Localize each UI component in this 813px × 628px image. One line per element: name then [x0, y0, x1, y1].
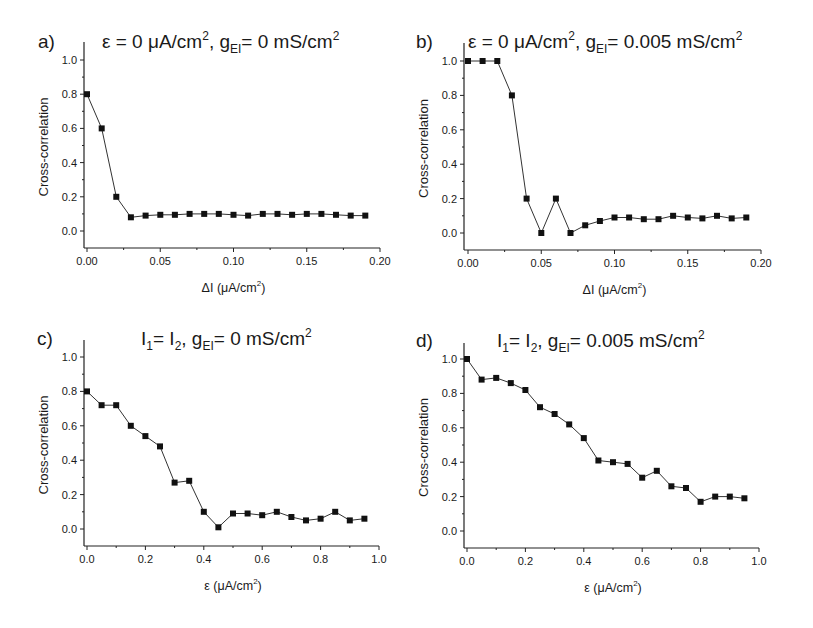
y-tick-label: 0.8: [62, 88, 77, 100]
data-point: [479, 377, 485, 383]
x-tick-label: 0.2: [138, 553, 153, 565]
data-point: [275, 211, 281, 217]
data-point: [128, 214, 134, 220]
data-point: [582, 222, 588, 228]
x-tick-label: 0.4: [576, 555, 591, 567]
data-point: [553, 196, 559, 202]
y-tick-label: 0.6: [62, 122, 77, 134]
data-point: [685, 215, 691, 221]
data-point: [113, 194, 119, 200]
data-point: [333, 212, 339, 218]
data-point: [552, 411, 558, 417]
x-tick-label: 0.20: [750, 257, 771, 269]
x-tick-label: 1.0: [751, 555, 766, 567]
y-tick-label: 0.4: [442, 456, 457, 468]
data-point: [245, 213, 251, 219]
x-tick-label: 0.10: [223, 255, 244, 267]
x-tick-label: 0.05: [531, 257, 552, 269]
data-point: [201, 211, 207, 217]
y-tick-label: 0.6: [442, 124, 457, 136]
data-point: [332, 509, 338, 515]
data-point: [625, 461, 631, 467]
y-tick-label: 0.0: [62, 523, 77, 535]
data-point: [288, 514, 294, 520]
x-axis-label: ε (μA/cm2): [584, 579, 642, 595]
data-point: [494, 58, 500, 64]
data-point: [362, 213, 368, 219]
data-point: [303, 517, 309, 523]
data-point: [201, 509, 207, 515]
panel-letter: c): [37, 328, 53, 349]
data-point: [538, 230, 544, 236]
panel-title: ε = 0 μA/cm2, gEI= 0.005 mS/cm2: [468, 29, 743, 56]
data-point: [698, 499, 704, 505]
data-point: [215, 524, 221, 530]
panel-d: 0.00.20.40.60.81.00.00.20.40.60.81.0ε (μ…: [416, 328, 767, 595]
y-tick-label: 1.0: [442, 55, 457, 67]
data-point: [566, 421, 572, 427]
data-point: [610, 459, 616, 465]
y-tick-label: 0.2: [442, 491, 457, 503]
figure: 0.00.20.40.60.81.00.000.050.100.150.20ΔI…: [0, 0, 813, 628]
y-tick-label: 0.0: [62, 225, 77, 237]
data-point: [595, 458, 601, 464]
data-point: [654, 468, 660, 474]
data-point: [260, 211, 266, 217]
data-point: [245, 511, 251, 517]
data-point: [612, 215, 618, 221]
x-axis-label: ΔI (μA/cm2): [583, 281, 647, 297]
y-tick-label: 0.6: [62, 420, 77, 432]
data-point: [99, 402, 105, 408]
y-tick-label: 0.2: [442, 193, 457, 205]
data-point: [113, 402, 119, 408]
panel-letter: b): [416, 31, 433, 52]
y-axis-label: Cross-correlation: [416, 398, 431, 497]
data-point: [626, 215, 632, 221]
data-point: [712, 494, 718, 500]
panel-letter: d): [416, 330, 433, 351]
panel-a: 0.00.20.40.60.81.00.000.050.100.150.20ΔI…: [36, 29, 391, 295]
x-tick-label: 0.00: [76, 255, 97, 267]
series-line: [87, 391, 364, 527]
x-tick-label: 0.20: [369, 255, 390, 267]
y-axis-label: Cross-correlation: [36, 98, 51, 197]
data-point: [641, 216, 647, 222]
data-point: [143, 213, 149, 219]
data-point: [172, 480, 178, 486]
y-axis-label: Cross-correlation: [36, 396, 51, 495]
data-point: [683, 485, 689, 491]
data-point: [524, 196, 530, 202]
data-point: [289, 212, 295, 218]
x-tick-label: 0.2: [518, 555, 533, 567]
x-tick-label: 0.05: [150, 255, 171, 267]
data-point: [99, 125, 105, 131]
x-tick-label: 0.6: [635, 555, 650, 567]
data-point: [348, 213, 354, 219]
data-point: [480, 58, 486, 64]
x-tick-label: 0.0: [459, 555, 474, 567]
data-point: [186, 478, 192, 484]
data-point: [581, 435, 587, 441]
data-point: [656, 216, 662, 222]
y-tick-label: 0.4: [62, 454, 77, 466]
x-tick-label: 0.00: [457, 257, 478, 269]
data-point: [668, 483, 674, 489]
y-tick-label: 0.0: [442, 525, 457, 537]
data-point: [318, 516, 324, 522]
x-tick-label: 0.8: [313, 553, 328, 565]
data-point: [347, 517, 353, 523]
y-tick-label: 0.8: [442, 89, 457, 101]
data-point: [128, 423, 134, 429]
y-tick-label: 0.4: [62, 157, 77, 169]
data-point: [670, 213, 676, 219]
x-tick-label: 1.0: [371, 553, 386, 565]
series-line: [87, 94, 365, 217]
y-tick-label: 0.8: [442, 387, 457, 399]
x-axis-label: ΔI (μA/cm2): [202, 279, 266, 295]
panel-title: ε = 0 μA/cm2, gEI= 0 mS/cm2: [102, 29, 340, 56]
series-line: [468, 61, 746, 233]
panel-title: I1= I2, gEI= 0 mS/cm2: [141, 326, 312, 353]
y-tick-label: 0.0: [442, 227, 457, 239]
x-axis-label: ε (μA/cm2): [204, 577, 262, 593]
data-point: [699, 215, 705, 221]
